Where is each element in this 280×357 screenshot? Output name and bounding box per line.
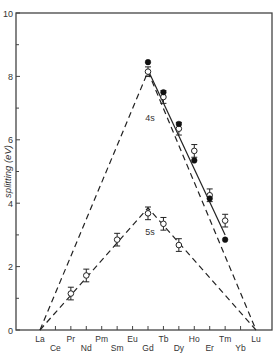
annotations: 4s5s [145,113,155,237]
curve-annotation: 4s [145,113,155,123]
open-circle-marker [176,242,182,248]
open-circle-marker [114,237,120,243]
solid-curve [148,70,225,235]
curve-annotation: 5s [145,227,155,237]
x-tick-label: Eu [127,334,138,344]
filled-circle-marker [191,158,197,164]
y-tick-label: 2 [8,262,13,272]
x-tick-label: Gd [142,343,154,353]
plot-frame [16,13,272,330]
open-circle-marker [191,148,197,154]
x-tick-label: Lu [251,334,261,344]
open-circle-marker [145,69,151,75]
open-circle-marker [83,273,89,279]
x-tick-label: Er [205,343,214,353]
x-tick-label: Pr [67,334,76,344]
x-tick-label: Dy [174,343,185,353]
x-tick-label: Ce [50,343,61,353]
x-tick-label: Yb [235,343,246,353]
filled-circle-marker [222,237,228,243]
y-tick-label: 8 [8,72,13,82]
open-circle-marker [161,221,167,227]
y-tick-label: 0 [8,326,13,336]
open-circle-marker [145,211,151,217]
open-circle-marker [222,218,228,224]
y-tick-label: 10 [3,9,13,19]
x-tick-label: Tb [158,334,168,344]
y-tick-label: 4 [8,199,13,209]
x-tick-label: La [35,334,45,344]
axes: 0246810splitting (eV)LaCePrNdPmSmEuGdTbD… [2,9,272,354]
open-circle-marker [68,291,74,297]
x-tick-label: Sm [111,343,124,353]
data-markers [68,59,228,300]
splitting-chart: 0246810splitting (eV)LaCePrNdPmSmEuGdTbD… [0,0,280,357]
y-axis-label: splitting (eV) [2,145,13,198]
filled-circle-marker [161,89,167,95]
x-tick-label: Pm [95,334,108,344]
x-tick-label: Tm [219,334,231,344]
filled-circle-marker [145,59,151,65]
y-tick-label: 6 [8,135,13,145]
x-tick-label: Ho [189,334,200,344]
filled-circle-marker [207,196,213,202]
x-tick-label: Nd [81,343,92,353]
filled-circle-marker [176,121,182,127]
